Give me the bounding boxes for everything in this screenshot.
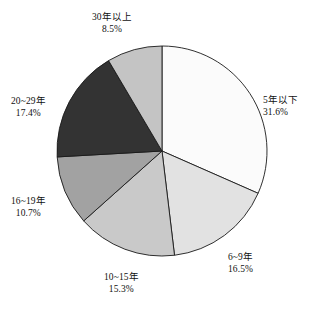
pie-label-percent: 16.5% [228, 264, 253, 276]
pie-label-under-5-years: 5年以下 31.6% [263, 95, 298, 118]
pie-label-name: 30年以上 [92, 12, 132, 24]
pie-label-name: 5年以下 [263, 95, 298, 107]
pie-label-percent: 8.5% [92, 24, 132, 36]
pie-label-name: 10~15年 [104, 272, 139, 284]
pie-label-percent: 17.4% [11, 108, 46, 120]
pie-label-percent: 10.7% [11, 208, 46, 220]
pie-label-name: 6~9年 [228, 252, 253, 264]
pie-label-30-plus-years: 30年以上 8.5% [92, 12, 132, 35]
pie-label-16-19-years: 16~19年 10.7% [11, 196, 46, 219]
pie-label-20-29-years: 20~29年 17.4% [11, 96, 46, 119]
pie-label-name: 16~19年 [11, 196, 46, 208]
pie-label-percent: 31.6% [263, 107, 298, 119]
pie-chart: 5年以下 31.6% 6~9年 16.5% 10~15年 15.3% 16~19… [0, 0, 318, 310]
pie-label-6-9-years: 6~9年 16.5% [228, 252, 253, 275]
pie-label-10-15-years: 10~15年 15.3% [104, 272, 139, 295]
pie-slice-group [57, 46, 267, 256]
pie-chart-canvas [0, 0, 318, 310]
pie-label-percent: 15.3% [104, 284, 139, 296]
pie-label-name: 20~29年 [11, 96, 46, 108]
